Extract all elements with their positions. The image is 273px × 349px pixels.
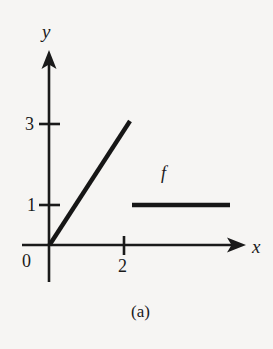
y-axis-label: y bbox=[42, 22, 50, 41]
curve-label-f: f bbox=[161, 164, 166, 182]
figure-caption: (a) bbox=[131, 303, 150, 320]
graph-canvas bbox=[0, 0, 273, 349]
y-tick-label-1: 1 bbox=[27, 196, 36, 214]
origin-label: 0 bbox=[22, 252, 31, 270]
figure-container: y x 3 1 0 2 f (a) bbox=[0, 0, 273, 349]
curve-segment-ramp bbox=[50, 121, 131, 245]
x-axis-label: x bbox=[252, 237, 260, 256]
x-tick-label-2: 2 bbox=[118, 257, 127, 275]
y-tick-label-3: 3 bbox=[25, 115, 34, 133]
